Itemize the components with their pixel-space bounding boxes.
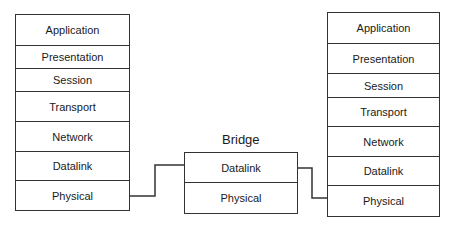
wire-bridge-to-right [298, 168, 327, 198]
connection-wires [0, 0, 455, 225]
wire-left-to-bridge [130, 165, 184, 196]
